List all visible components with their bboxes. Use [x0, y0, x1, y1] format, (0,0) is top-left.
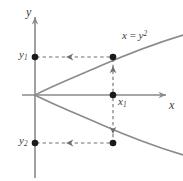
y1-tick-label: y1 — [19, 49, 28, 60]
point-x1-on-axis — [110, 92, 117, 99]
y1-subscript: 1 — [24, 54, 28, 62]
x-axis-label: x — [169, 99, 174, 111]
point-lower-intersection — [110, 140, 117, 147]
point-y2-on-axis — [32, 140, 39, 147]
equation-rhs-exponent: 2 — [144, 30, 148, 38]
curve-equation-label: x = y2 — [122, 30, 147, 41]
x1-subscript: 1 — [123, 101, 127, 109]
point-y1-on-axis — [32, 54, 39, 61]
x1-point-label: x1 — [118, 96, 127, 107]
parabola-figure: y x y1 y2 x1 x = y2 — [0, 0, 183, 181]
guide-horizontal-upper-arrow-icon — [66, 54, 73, 61]
y-axis-label: y — [26, 6, 31, 18]
guide-lines-group — [38, 54, 116, 147]
figure-canvas — [0, 0, 183, 181]
y2-subscript: 2 — [24, 140, 28, 148]
guide-horizontal-lower-arrow-icon — [66, 140, 73, 147]
equation-rhs-base: y — [139, 29, 144, 41]
equation-equals-sign: = — [127, 29, 139, 41]
y2-tick-label: y2 — [19, 135, 28, 146]
point-upper-intersection — [110, 54, 117, 61]
